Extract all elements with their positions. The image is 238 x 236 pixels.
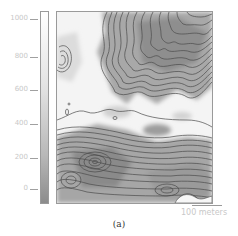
colorbar-tick [30, 57, 38, 58]
colorbar-tick-label: 800 [15, 52, 28, 60]
figure: 1000 800 600 400 200 0 [0, 0, 238, 236]
colorbar-tick-label: 600 [15, 85, 28, 93]
colorbar-tick-label: 1000 [10, 14, 28, 22]
colorbar-tick [30, 124, 38, 125]
colorbar-tick [30, 158, 38, 159]
colorbar [40, 11, 49, 204]
contour-map-graphic [57, 12, 212, 203]
colorbar-tick-label: 0 [24, 184, 28, 192]
scale-bar-label: 100 meters [181, 208, 227, 217]
scale-bar [192, 205, 222, 206]
colorbar-tick [30, 90, 38, 91]
colorbar-tick [30, 189, 38, 190]
colorbar-tick-label: 200 [15, 153, 28, 161]
colorbar-tick-label: 400 [15, 119, 28, 127]
contour-plot [56, 11, 213, 204]
colorbar-tick [30, 19, 38, 20]
figure-caption: (a) [0, 219, 238, 229]
